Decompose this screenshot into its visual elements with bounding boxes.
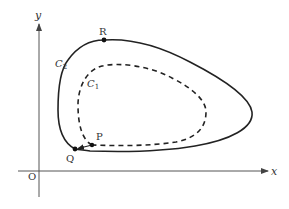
y-axis-label: y	[34, 9, 42, 22]
diagram-canvas: x y O R P Q C2 C1	[0, 0, 289, 209]
origin-label: O	[28, 171, 36, 182]
curve-c2	[58, 40, 252, 152]
curve-c2-subscript: 2	[63, 63, 67, 71]
x-axis-label: x	[271, 165, 278, 178]
curve-c1-label: C1	[87, 78, 99, 91]
point-r-label: R	[99, 26, 107, 37]
point-r	[102, 38, 107, 43]
point-p-label: P	[96, 131, 103, 142]
curve-c2-label: C2	[55, 58, 67, 71]
point-p	[90, 143, 94, 147]
point-q-label: Q	[66, 153, 74, 164]
point-q	[73, 147, 78, 152]
curve-c1-subscript: 1	[95, 83, 99, 91]
